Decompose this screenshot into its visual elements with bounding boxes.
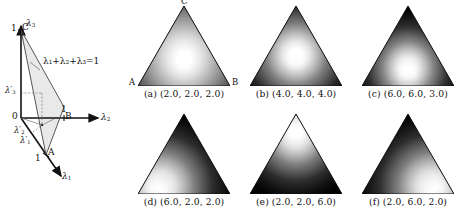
triangle-outline-b [250, 6, 342, 86]
panel-parameters-f: (2.0, 6.0, 2.0) [380, 196, 447, 207]
panel-caption-c: (c) (6.0, 6.0, 3.0) [352, 88, 464, 99]
ternary-triangle-f [362, 114, 454, 194]
panel-tag-a: (a) [144, 88, 157, 99]
panel-parameters-a: (2.0, 2.0, 2.0) [157, 88, 224, 99]
panel-parameters-e: (2.0, 2.0, 6.0) [269, 196, 336, 207]
triangle-outline-d [138, 114, 230, 194]
panel-caption-d: (d) (6.0, 2.0, 2.0) [128, 196, 240, 207]
lambda2-axis-label: λ2 [101, 113, 110, 123]
panel-tag-d: (d) [144, 196, 157, 207]
lambda1-tick-label: 1 [35, 154, 41, 163]
panel-parameters-d: (6.0, 2.0, 2.0) [157, 196, 224, 207]
panel-tag-e: (e) [256, 196, 269, 207]
panel-tag-b: (b) [256, 88, 269, 99]
lambda3-tick-label: 1 [11, 24, 17, 33]
density-panel-grid: CAB(a) (2.0, 2.0, 2.0)(b) (4.0, 4.0, 4.0… [128, 0, 464, 216]
triangle-vertex-label-right: B [232, 77, 238, 87]
lambda1-prime-label: λ′1 [20, 136, 31, 145]
panel-tag-c: (c) [368, 88, 381, 99]
density-panel-b: (b) (4.0, 4.0, 4.0) [240, 0, 352, 108]
simplex-equation-label: λ₁+λ₂+λ₃=1 [43, 57, 99, 66]
figure-root: λ3 λ2 λ1 1 1 1 0 C B A λ′3 λ′2 λ′1 λ₁+λ₂… [0, 0, 464, 216]
panel-caption-b: (b) (4.0, 4.0, 4.0) [240, 88, 352, 99]
density-panel-a: CAB(a) (2.0, 2.0, 2.0) [128, 0, 240, 108]
interior-point-marker [41, 124, 43, 126]
triangle-vertex-label-left: A [129, 77, 135, 87]
panel-caption-e: (e) (2.0, 2.0, 6.0) [240, 196, 352, 207]
lambda1-axis-label: λ1 [62, 172, 71, 182]
panel-parameters-c: (6.0, 6.0, 3.0) [381, 88, 448, 99]
ternary-triangle-c [362, 6, 454, 86]
triangle-outline-e [250, 114, 342, 194]
vertex-label-C: C [22, 23, 29, 32]
triangle-outline-c [362, 6, 454, 86]
density-panel-f: (f) (2.0, 6.0, 2.0) [352, 108, 464, 216]
vertex-label-B: B [65, 112, 72, 121]
origin-label: 0 [12, 112, 18, 121]
ternary-triangle-e [250, 114, 342, 194]
ternary-triangle-a [138, 6, 230, 86]
ternary-triangle-b [250, 6, 342, 86]
density-panel-c: (c) (6.0, 6.0, 3.0) [352, 0, 464, 108]
density-panel-d: (d) (6.0, 2.0, 2.0) [128, 108, 240, 216]
density-panel-e: (e) (2.0, 2.0, 6.0) [240, 108, 352, 216]
lambda3-prime-label: λ′3 [5, 86, 16, 95]
panel-caption-f: (f) (2.0, 6.0, 2.0) [352, 196, 464, 207]
triangle-vertex-label-top: C [181, 0, 187, 6]
ternary-triangle-d [138, 114, 230, 194]
simplex-diagram: λ3 λ2 λ1 1 1 1 0 C B A λ′3 λ′2 λ′1 λ₁+λ₂… [0, 0, 128, 216]
triangle-outline-f [362, 114, 454, 194]
panel-tag-f: (f) [369, 196, 380, 207]
lambda2-prime-label: λ′2 [14, 126, 25, 135]
panel-caption-a: (a) (2.0, 2.0, 2.0) [128, 88, 240, 99]
panel-parameters-b: (4.0, 4.0, 4.0) [269, 88, 336, 99]
vertex-label-A: A [48, 148, 55, 157]
triangle-outline-a [138, 6, 230, 86]
